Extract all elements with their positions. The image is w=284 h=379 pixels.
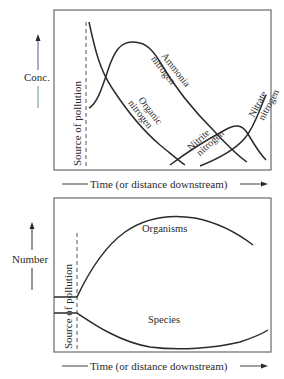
bottom-time-axis-label: Time (or distance downstream) (90, 360, 228, 373)
nitrate-nitrogen-label: Nitrate nitrogen (246, 83, 281, 124)
conc-axis: Conc. (24, 34, 50, 108)
organic-nitrogen-curve (89, 22, 185, 165)
top-time-axis: Time (or distance downstream) (62, 178, 268, 191)
number-axis-label: Number (12, 253, 48, 265)
source-of-pollution-label: Source of pollution (62, 264, 74, 349)
organic-nitrogen-label: Organic nitrogen (126, 91, 165, 133)
top-time-axis-label: Time (or distance downstream) (90, 178, 228, 191)
nitrite-nitrogen-label: Nitrite nitrogen (185, 120, 226, 160)
top-chart-frame (54, 10, 271, 170)
arrow-right-icon (261, 364, 268, 369)
pollution-diagram: Conc. Source of pollution Ammonia nitrog… (0, 0, 284, 379)
species-label: Species (148, 314, 180, 325)
organisms-label: Organisms (142, 223, 187, 234)
arrow-up-icon (36, 34, 41, 41)
arrow-right-icon (261, 182, 268, 187)
arrow-up-icon (30, 222, 35, 229)
bottom-chart-frame (54, 198, 271, 352)
conc-axis-label: Conc. (24, 71, 50, 83)
bottom-chart: Number Source of pollution Organisms Spe… (12, 198, 271, 373)
top-chart: Conc. Source of pollution Ammonia nitrog… (24, 10, 281, 191)
source-of-pollution-label: Source of pollution (71, 81, 83, 166)
ammonia-nitrogen-label: Ammonia nitrogen (149, 47, 193, 95)
number-axis: Number (12, 222, 48, 290)
bottom-time-axis: Time (or distance downstream) (62, 360, 268, 373)
